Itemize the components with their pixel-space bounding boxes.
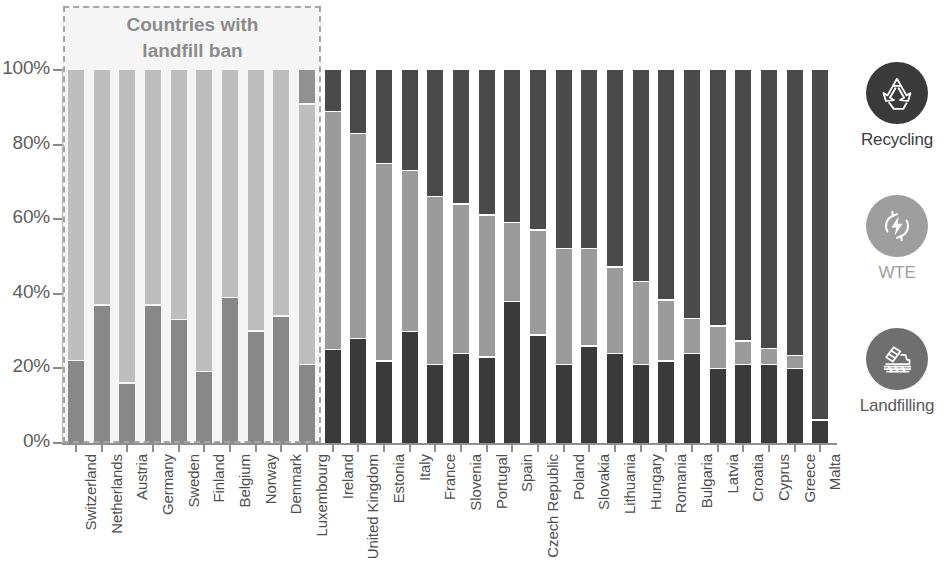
stacked-bar[interactable]: [479, 70, 495, 443]
stacked-bar[interactable]: [299, 70, 315, 443]
x-axis-label-cell: Poland: [551, 452, 577, 585]
bar-column[interactable]: [499, 70, 525, 443]
bar-column[interactable]: [628, 70, 654, 443]
recycle-icon: [866, 62, 928, 124]
bar-column[interactable]: [294, 70, 320, 443]
bar-column[interactable]: [217, 70, 243, 443]
x-axis-label-cell: Netherlands: [89, 452, 115, 585]
stacked-bar[interactable]: [68, 70, 84, 443]
stacked-bar[interactable]: [427, 70, 443, 443]
bar-column[interactable]: [89, 70, 115, 443]
bar-column[interactable]: [551, 70, 577, 443]
stacked-bar[interactable]: [222, 70, 238, 443]
bar-column[interactable]: [756, 70, 782, 443]
x-axis-tick-mark: [75, 443, 77, 452]
bar-segment-recycling: [787, 369, 803, 443]
bar-column[interactable]: [114, 70, 140, 443]
stacked-bar[interactable]: [325, 70, 341, 443]
bar-segment-landfilling: [581, 70, 597, 248]
stacked-bar[interactable]: [761, 70, 777, 443]
stacked-bar[interactable]: [94, 70, 110, 443]
bar-segment-wte: [479, 216, 495, 357]
stacked-bar[interactable]: [607, 70, 623, 443]
bar-column[interactable]: [63, 70, 89, 443]
bar-column[interactable]: [448, 70, 474, 443]
x-axis-tick-mark: [768, 443, 770, 452]
bar-column[interactable]: [730, 70, 756, 443]
stacked-bar[interactable]: [633, 70, 649, 443]
legend-item-landfilling[interactable]: Landfilling: [848, 328, 946, 416]
bar-segment-wte: [658, 301, 674, 360]
stacked-bar[interactable]: [145, 70, 161, 443]
stacked-bar[interactable]: [735, 70, 751, 443]
bar-column[interactable]: [371, 70, 397, 443]
bar-segment-landfilling: [453, 70, 469, 203]
bar-group: [63, 70, 833, 443]
bar-column[interactable]: [345, 70, 371, 443]
x-axis-label-cell: Luxembourg: [294, 452, 320, 585]
stacked-bar[interactable]: [556, 70, 572, 443]
bar-column[interactable]: [422, 70, 448, 443]
stacked-bar[interactable]: [684, 70, 700, 443]
stacked-bar[interactable]: [196, 70, 212, 443]
bar-column[interactable]: [602, 70, 628, 443]
stacked-bar[interactable]: [376, 70, 392, 443]
bar-segment-wte: [735, 342, 751, 364]
bar-column[interactable]: [140, 70, 166, 443]
stacked-bar[interactable]: [812, 70, 828, 443]
bar-column[interactable]: [474, 70, 500, 443]
stacked-bar[interactable]: [787, 70, 803, 443]
legend-item-wte[interactable]: WTE: [848, 195, 946, 283]
stacked-bar[interactable]: [273, 70, 289, 443]
stacked-bar[interactable]: [504, 70, 520, 443]
bar-segment-landfilling: [504, 70, 520, 222]
bar-segment-recycling: [248, 332, 264, 443]
bar-column[interactable]: [705, 70, 731, 443]
x-axis-label-cell: Denmark: [268, 452, 294, 585]
bar-column[interactable]: [782, 70, 808, 443]
x-axis-label-cell: Romania: [653, 452, 679, 585]
bar-column[interactable]: [679, 70, 705, 443]
bar-column[interactable]: [807, 70, 833, 443]
bar-segment-wte: [119, 70, 135, 382]
stacked-bar[interactable]: [171, 70, 187, 443]
x-axis-tick-mark: [280, 443, 282, 452]
bar-segment-wte: [504, 223, 520, 301]
bar-column[interactable]: [653, 70, 679, 443]
bar-segment-recycling: [196, 372, 212, 443]
bar-segment-recycling: [735, 365, 751, 443]
bar-segment-wte: [299, 105, 315, 364]
bar-column[interactable]: [191, 70, 217, 443]
bar-segment-wte: [376, 164, 392, 360]
bar-segment-wte: [581, 249, 597, 345]
bar-segment-recycling: [427, 365, 443, 443]
bar-column[interactable]: [576, 70, 602, 443]
bar-segment-recycling: [530, 336, 546, 443]
bar-column[interactable]: [397, 70, 423, 443]
bar-segment-recycling: [376, 362, 392, 443]
bar-segment-wte: [787, 356, 803, 367]
legend-item-recycling[interactable]: Recycling: [848, 62, 946, 150]
stacked-bar[interactable]: [453, 70, 469, 443]
stacked-bar[interactable]: [581, 70, 597, 443]
bar-column[interactable]: [268, 70, 294, 443]
x-axis-label-cell: United Kingdom: [345, 452, 371, 585]
stacked-bar[interactable]: [530, 70, 546, 443]
bar-column[interactable]: [166, 70, 192, 443]
x-axis-label-cell: Czech Republic: [525, 452, 551, 585]
stacked-bar[interactable]: [350, 70, 366, 443]
bar-segment-wte: [248, 70, 264, 330]
stacked-bar[interactable]: [658, 70, 674, 443]
x-axis-tick-mark: [203, 443, 205, 452]
stacked-bar[interactable]: [402, 70, 418, 443]
bar-segment-recycling: [453, 354, 469, 443]
stacked-bar[interactable]: [119, 70, 135, 443]
stacked-bar[interactable]: [248, 70, 264, 443]
bar-column[interactable]: [320, 70, 346, 443]
bar-column[interactable]: [243, 70, 269, 443]
stacked-bar[interactable]: [710, 70, 726, 443]
y-axis-tick-label: 60%: [13, 206, 50, 228]
bar-segment-wte: [273, 70, 289, 315]
bar-column[interactable]: [525, 70, 551, 443]
bar-segment-recycling: [633, 365, 649, 443]
